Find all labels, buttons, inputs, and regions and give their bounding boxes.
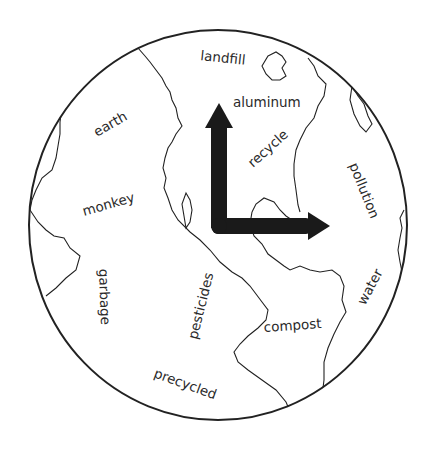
arrow-up-shaft xyxy=(211,118,227,228)
arrow-origin xyxy=(211,218,227,234)
globe-diagram: landfill aluminum earth recycle pollutio… xyxy=(0,0,435,449)
label-garbage: garbage xyxy=(96,269,114,326)
label-aluminum: aluminum xyxy=(233,94,301,110)
